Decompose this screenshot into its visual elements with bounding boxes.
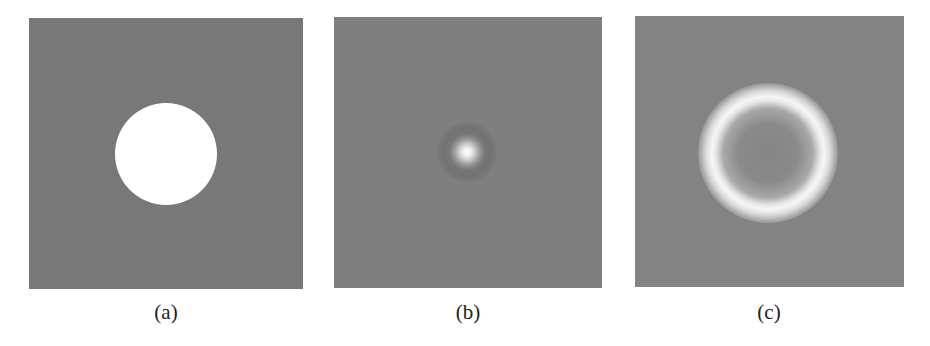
panel-a-image: [29, 18, 303, 289]
panel-b-image: [334, 17, 602, 288]
bright-spot: [437, 122, 497, 182]
caption-c: (c): [729, 300, 809, 325]
caption-b: (b): [428, 300, 508, 325]
white-disk: [115, 103, 217, 205]
panel-c-image: [635, 16, 904, 287]
ring-response: [698, 83, 838, 223]
caption-a: (a): [126, 300, 206, 325]
